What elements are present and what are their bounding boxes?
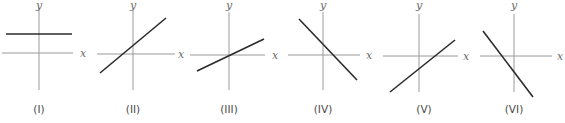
graph-5: xy(V) <box>383 0 470 115</box>
x-axis-label: x <box>463 50 470 63</box>
x-axis-label: x <box>366 49 373 62</box>
graph-4: xy(IV) <box>288 0 373 115</box>
graph-2: xy(II) <box>97 0 185 115</box>
y-axis-label: y <box>129 0 137 12</box>
six-line-graphs-figure: xy(I)xy(II)xy(III)xy(IV)xy(V)xy(VI) <box>0 0 565 123</box>
graph-6: xy(VI) <box>480 0 564 115</box>
graph-caption: (V) <box>416 103 431 115</box>
graph-caption: (III) <box>220 103 237 115</box>
graph-caption: (I) <box>33 103 44 115</box>
x-axis-label: x <box>80 47 87 60</box>
y-axis-label: y <box>319 0 327 12</box>
y-axis-label: y <box>510 0 518 12</box>
plotted-line <box>483 31 533 97</box>
graph-caption: (IV) <box>314 103 332 115</box>
plotted-line <box>390 40 455 92</box>
y-axis-label: y <box>225 0 233 12</box>
y-axis-label: y <box>35 0 43 12</box>
x-axis-label: x <box>272 49 279 62</box>
plotted-line <box>299 19 357 80</box>
graph-caption: (VI) <box>505 103 523 115</box>
graph-1: xy(I) <box>2 0 87 115</box>
graph-caption: (II) <box>126 103 140 115</box>
graph-3: xy(III) <box>190 0 279 115</box>
y-axis-label: y <box>415 0 423 12</box>
x-axis-label: x <box>178 48 185 61</box>
x-axis-label: x <box>557 50 564 63</box>
